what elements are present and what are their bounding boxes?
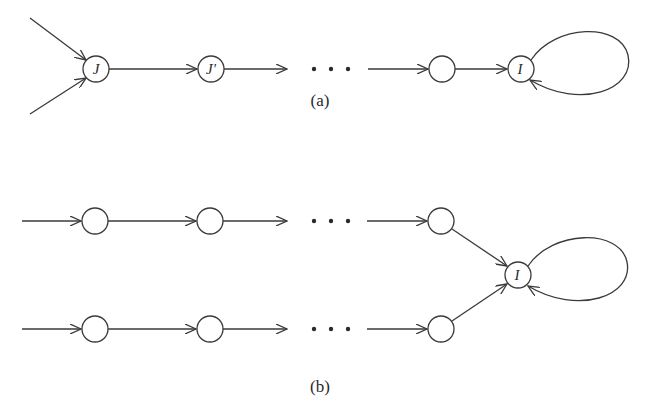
node-row1-3	[428, 208, 454, 234]
self-loop-i-a	[530, 32, 629, 95]
node-row2-2	[197, 316, 223, 342]
node-i-a: I	[508, 56, 534, 82]
self-loop-i-b	[528, 238, 628, 301]
node-unnamed-a	[429, 56, 455, 82]
node-j-prime-label: J'	[206, 61, 217, 77]
chain-row-1	[22, 208, 454, 234]
edge-in-upper-to-j	[30, 18, 86, 60]
node-i-b-label: I	[514, 267, 521, 283]
subfigure-b: I (b)	[22, 208, 628, 396]
node-j-prime: J'	[198, 56, 224, 82]
node-i-a-label: I	[517, 61, 524, 77]
subfigure-a: J J' I (a)	[30, 18, 629, 114]
caption-a: (a)	[311, 91, 330, 110]
chain-row-2	[22, 316, 454, 342]
caption-b: (b)	[310, 377, 330, 396]
ellipsis-a	[312, 67, 350, 71]
node-row1-1	[82, 208, 108, 234]
edge-row1-to-i	[452, 229, 507, 266]
edge-in-lower-to-j	[30, 78, 86, 114]
node-row1-2	[197, 208, 223, 234]
ellipsis-b-row2	[312, 327, 350, 331]
node-row2-3	[428, 316, 454, 342]
diagram-canvas: J J' I (a)	[0, 0, 651, 416]
node-i-b: I	[505, 262, 531, 288]
ellipsis-b-row1	[312, 219, 350, 223]
edge-row2-to-i	[452, 284, 507, 321]
node-row2-1	[82, 316, 108, 342]
node-j: J	[83, 56, 109, 82]
